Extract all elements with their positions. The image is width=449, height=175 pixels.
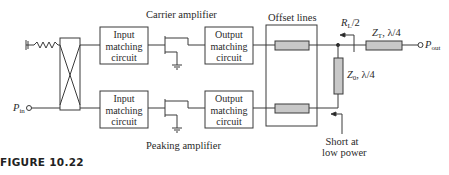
text-line: Input — [100, 29, 148, 41]
text-line: Output — [205, 93, 253, 105]
input-matching-top-label: Input matching circuit — [100, 29, 148, 64]
termination-resistor — [34, 42, 60, 48]
p-out-terminal — [418, 43, 423, 48]
text-line: circuit — [205, 116, 253, 128]
text-line: Output — [205, 29, 253, 41]
offset-tline-bottom — [275, 104, 309, 113]
text-line: Input — [100, 93, 148, 105]
rl-half-arrow-icon — [340, 33, 354, 52]
z0-quarter-wave-tline — [334, 58, 343, 94]
short-arrow-icon — [331, 112, 342, 134]
text-line: circuit — [100, 52, 148, 64]
p-out-label: Pout — [425, 39, 440, 54]
carrier-amplifier-label: Carrier amplifier — [146, 9, 217, 20]
text-line: matching — [100, 41, 148, 53]
text-line: Short at — [322, 136, 362, 147]
short-at-low-power-label: Short at low power — [322, 136, 362, 158]
output-matching-bottom-label: Output matching circuit — [205, 93, 253, 128]
text-line: circuit — [205, 52, 253, 64]
p-in-terminal — [27, 106, 32, 111]
suffix: , λ/4 — [356, 69, 375, 80]
offset-tline-top — [275, 41, 309, 50]
peaking-amplifier-label: Peaking amplifier — [146, 140, 221, 151]
text-line: matching — [100, 105, 148, 117]
figure-caption: FIGURE 10.22 — [0, 156, 84, 168]
p-in-label: Pin — [13, 102, 25, 117]
z0-label: Z0, λ/4 — [347, 69, 375, 84]
text-line: circuit — [100, 116, 148, 128]
text-line: low power — [322, 147, 362, 158]
subscript: out — [431, 44, 440, 52]
peaking-transistor-icon — [148, 99, 205, 132]
text-line: matching — [205, 41, 253, 53]
output-matching-top-label: Output matching circuit — [205, 29, 253, 64]
suffix: /2 — [352, 17, 360, 28]
offset-lines-label: Offset lines — [268, 12, 317, 23]
suffix: , λ/4 — [382, 27, 401, 38]
input-matching-bottom-label: Input matching circuit — [100, 93, 148, 128]
rl-half-label: RL/2 — [341, 17, 360, 32]
termination-ground-icon — [26, 40, 34, 50]
carrier-transistor-icon — [148, 36, 205, 69]
zt-label: ZT, λ/4 — [372, 27, 401, 42]
text-line: matching — [205, 105, 253, 117]
subscript: in — [19, 107, 24, 115]
zt-quarter-wave-tline — [366, 41, 402, 50]
